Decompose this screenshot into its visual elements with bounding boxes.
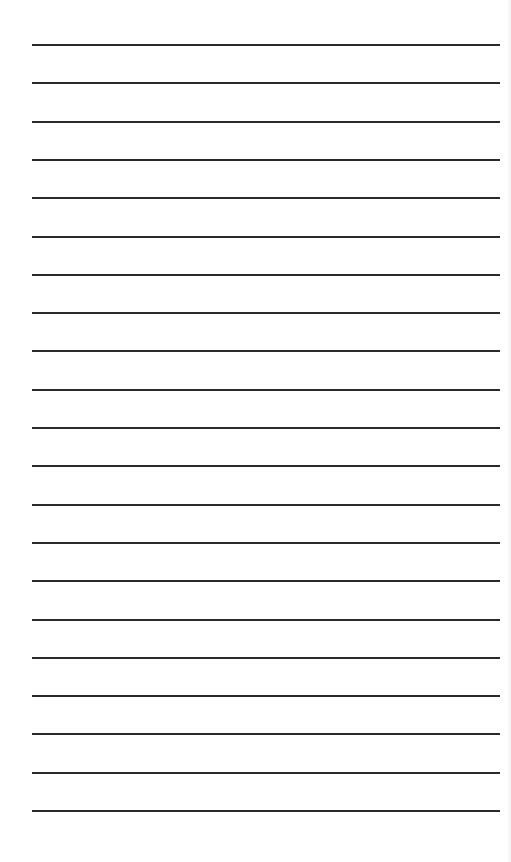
ruled-line xyxy=(32,504,500,506)
ruled-line xyxy=(32,619,500,621)
ruled-line xyxy=(32,810,500,812)
ruled-line xyxy=(32,197,500,199)
ruled-line xyxy=(32,695,500,697)
ruled-line xyxy=(32,389,500,391)
ruled-line xyxy=(32,542,500,544)
ruled-line xyxy=(32,82,500,84)
ruled-line xyxy=(32,733,500,735)
ruled-line xyxy=(32,772,500,774)
ruled-line xyxy=(32,121,500,123)
ruled-line xyxy=(32,657,500,659)
ruled-line xyxy=(32,580,500,582)
ruled-line xyxy=(32,274,500,276)
ruled-line xyxy=(32,159,500,161)
ruled-line xyxy=(32,312,500,314)
ruled-line xyxy=(32,44,500,46)
ruled-line xyxy=(32,465,500,467)
ruled-line xyxy=(32,350,500,352)
page-edge-shadow xyxy=(507,0,511,862)
ruled-line xyxy=(32,236,500,238)
ruled-line xyxy=(32,427,500,429)
lined-paper-page xyxy=(0,0,511,862)
